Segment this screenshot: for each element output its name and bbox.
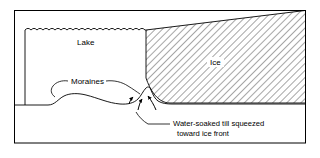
water-soaked-till-leader (136, 112, 170, 124)
till-flow-arrow-mid-icon (138, 99, 142, 110)
glacial-lake-cross-section-diagram: Moraines Water-soaked till squeezed towa… (0, 0, 320, 158)
figure-root: Moraines Water-soaked till squeezed towa… (0, 0, 320, 158)
water-soaked-till-annotation: Water-soaked till squeezed toward ice fr… (136, 112, 264, 138)
ice-region (146, 11, 305, 104)
water-soaked-till-label-line1: Water-soaked till squeezed (173, 119, 264, 128)
moraines-label: Moraines (71, 77, 104, 86)
moraines-annotation: Moraines (51, 77, 140, 97)
ice-label: Ice (210, 58, 221, 67)
lake-water-surface-wavy-line (25, 28, 146, 30)
ice-label-group: Ice (207, 57, 224, 67)
moraines-leader-right (106, 81, 140, 94)
till-flow-arrows (129, 96, 156, 110)
lake-label: Lake (77, 38, 95, 47)
water-soaked-till-label-line2: toward ice front (177, 129, 230, 138)
ice-hatch-fill (146, 11, 305, 104)
moraines-leader-left (51, 81, 68, 97)
